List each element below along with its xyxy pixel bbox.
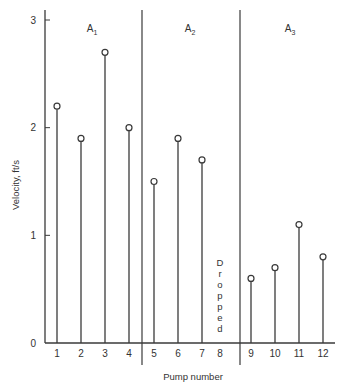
stem-pump-3 [102,49,108,343]
region-dividers [142,10,240,365]
x-tick-label: 2 [78,348,84,359]
stem-pump-7 [199,157,205,343]
region-label: A1 [87,23,98,36]
stem-marker [151,179,157,185]
y-tick-label: 1 [30,230,36,241]
stem-pump-6 [175,135,181,343]
x-tick-label: 12 [317,348,329,359]
y-axis-title: Velocity, ft/s [10,160,21,210]
stem-marker [126,125,132,131]
stem-pump-10 [272,265,278,343]
region-label: A2 [185,23,196,36]
dropped-letter: p [217,290,222,301]
region-label: A3 [285,23,296,36]
x-tick-label: 5 [151,348,157,359]
dropped-letter: o [217,279,222,290]
stem-marker [78,135,84,141]
dropped-letter: e [217,312,222,323]
stem-pump-12 [320,254,326,343]
y-tick-label: 2 [30,122,36,133]
stem-pump-1 [54,103,60,343]
stem-pump-4 [126,125,132,343]
stem-marker [102,49,108,55]
stem-marker [248,275,254,281]
stem-pump-11 [296,222,302,343]
data-stems [54,49,326,343]
stem-marker [199,157,205,163]
region-labels: A1A2A3 [87,23,296,36]
dropped-letter: d [217,323,222,334]
stem-pump-2 [78,135,84,343]
x-tick-label: 10 [269,348,281,359]
stem-marker [175,135,181,141]
axes [45,10,335,343]
x-tick-label: 6 [175,348,181,359]
stem-marker [272,265,278,271]
x-axis-title: Pump number [163,371,223,382]
stem-pump-5 [151,179,157,344]
y-tick-label: 3 [30,15,36,26]
x-tick-label: 8 [217,348,223,359]
x-tick-label: 9 [248,348,254,359]
x-tick-label: 3 [102,348,108,359]
dropped-annotation: Dropped [217,257,224,334]
dropped-letter: D [217,257,224,268]
stem-marker [320,254,326,260]
y-tick-label: 0 [30,338,36,349]
x-tick-label: 11 [294,348,305,359]
x-tick-label: 4 [126,348,132,359]
stem-marker [54,103,60,109]
stem-pump-9 [248,275,254,343]
dropped-letter: r [218,268,221,279]
stem-marker [296,222,302,228]
x-tick-labels: 123456789101112 [54,348,329,359]
x-tick-label: 7 [199,348,205,359]
y-tick-labels: 0123 [30,15,50,349]
x-tick-label: 1 [54,348,60,359]
dropped-letter: p [217,301,222,312]
stem-chart: A1A2A3 123456789101112 0123 Dropped Pump… [0,0,348,387]
